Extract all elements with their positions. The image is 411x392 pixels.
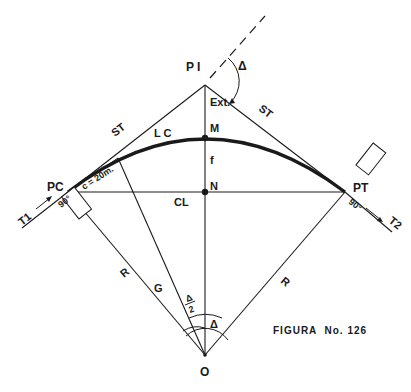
- label-r-left: R: [118, 265, 132, 279]
- label-g: G: [154, 282, 163, 294]
- point-m: [202, 135, 208, 141]
- label-t1: T1: [16, 210, 34, 227]
- label-t2: T2: [387, 214, 405, 231]
- label-cl: CL: [174, 196, 189, 208]
- label-st-right: ST: [257, 102, 276, 120]
- label-delta-top: Δ: [238, 59, 247, 73]
- figure-caption: FIGURA No. 126: [273, 325, 367, 336]
- label-pt: PT: [353, 181, 369, 195]
- curve-geometry-diagram: P I Δ Ext. M f N CL L C ST ST PC PT c = …: [0, 0, 411, 392]
- label-pc: PC: [47, 180, 64, 194]
- label-m: M: [210, 122, 219, 134]
- label-ext: Ext.: [210, 96, 230, 108]
- label-delta-center: Δ: [210, 318, 218, 330]
- label-right-angle-pt: 90°: [347, 197, 364, 214]
- radius-chord-c: [118, 158, 205, 355]
- label-f: f: [210, 154, 214, 166]
- point-o: [203, 353, 207, 357]
- label-r-right: R: [279, 274, 293, 288]
- label-pi: P I: [186, 60, 200, 74]
- right-angle-box-pt: [356, 143, 386, 175]
- label-n: N: [210, 180, 218, 192]
- label-o: O: [200, 365, 209, 379]
- t2-arrow-shaft: [366, 208, 381, 220]
- angle-delta-center-arc: [186, 328, 228, 340]
- t1-arrow-head-icon: [46, 196, 52, 202]
- label-chord-c: c = 20m.: [80, 164, 115, 192]
- label-delta-half-den: 2: [187, 304, 195, 315]
- point-n: [202, 189, 208, 195]
- label-lc: L C: [154, 127, 172, 139]
- label-st-left: ST: [109, 120, 128, 138]
